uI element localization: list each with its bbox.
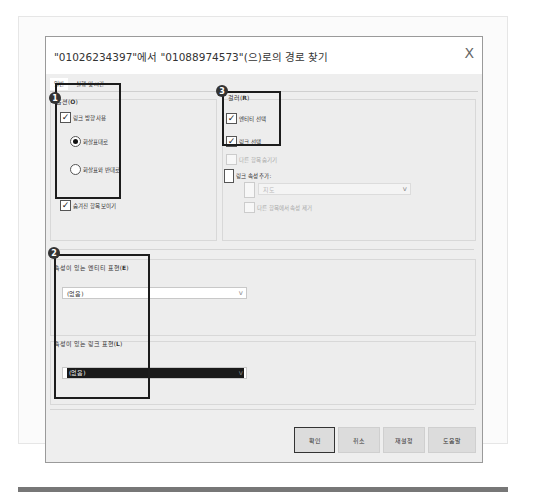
checkbox-unchecked-icon bbox=[226, 154, 237, 165]
bottom-edge bbox=[18, 487, 508, 492]
close-icon[interactable]: X bbox=[464, 45, 474, 61]
checkbox-checked-icon: ✓ bbox=[60, 200, 71, 211]
annotation-badge-2: 2 bbox=[48, 247, 60, 259]
reset-button[interactable]: 재설정 bbox=[383, 427, 425, 453]
checkbox-unchecked-icon bbox=[244, 202, 255, 213]
remove-attr-checkbox[interactable]: 다른 항목에서 속성 제거 bbox=[244, 202, 312, 213]
checkbox-unchecked-icon bbox=[224, 169, 234, 183]
attr-dropdown[interactable]: 지도 v bbox=[258, 183, 411, 195]
hide-other-checkbox[interactable]: 다른 항목 숨기기 bbox=[226, 154, 278, 165]
annotation-box-2 bbox=[54, 254, 150, 399]
show-hidden-checkbox[interactable]: ✓ 숨겨진 항목 보이기 bbox=[60, 200, 117, 211]
link-attr-add-checkbox[interactable]: 링크 속성 추가: bbox=[224, 169, 271, 183]
divider bbox=[50, 249, 474, 250]
attr-color-swatch[interactable] bbox=[244, 182, 255, 198]
ok-button[interactable]: 확인 bbox=[294, 427, 335, 453]
annotation-badge-3: 3 bbox=[216, 85, 228, 97]
chevron-down-icon: v bbox=[239, 369, 243, 377]
annotation-box-3 bbox=[222, 91, 281, 146]
chevron-down-icon: v bbox=[239, 289, 243, 297]
divider bbox=[50, 409, 474, 410]
help-button[interactable]: 도움말 bbox=[428, 427, 476, 453]
cancel-button[interactable]: 취소 bbox=[338, 427, 380, 453]
dialog-title: "01026234397"에서 "01088974573"(으)로의 경로 찾기 bbox=[54, 49, 329, 64]
chevron-down-icon: v bbox=[403, 185, 407, 193]
find-path-dialog: "01026234397"에서 "01088974573"(으)로의 경로 찾기… bbox=[45, 36, 483, 463]
annotation-box-1 bbox=[55, 83, 121, 199]
title-bar: "01026234397"에서 "01088974573"(으)로의 경로 찾기… bbox=[46, 37, 482, 74]
annotation-badge-1: 1 bbox=[49, 92, 61, 104]
